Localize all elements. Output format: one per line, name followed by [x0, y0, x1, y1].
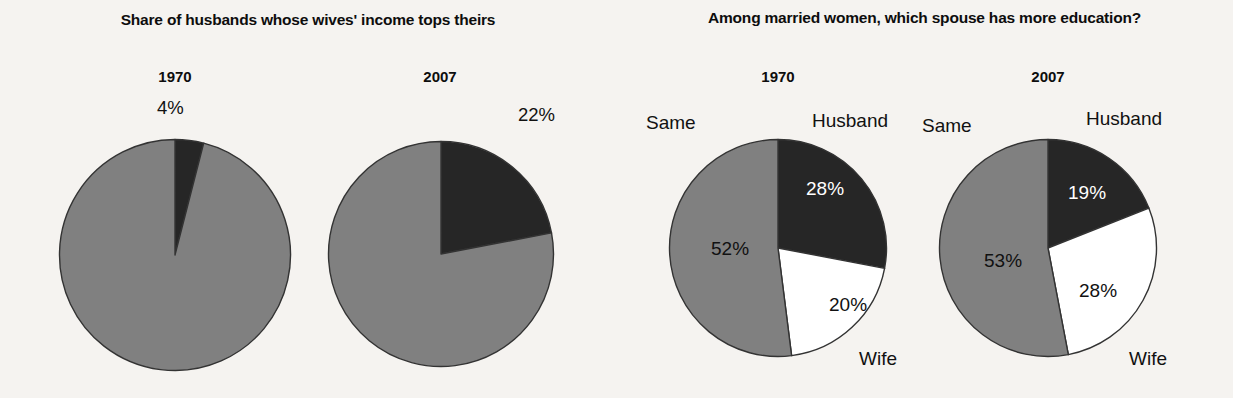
- value-same-1970: 52%: [711, 238, 749, 260]
- value-husband-2007: 19%: [1068, 182, 1106, 204]
- label-same-1970: Same: [646, 112, 696, 134]
- callout-income-2007: 22%: [518, 104, 555, 126]
- year-label-income-1970: 1970: [115, 68, 235, 85]
- value-same-2007: 53%: [984, 250, 1022, 272]
- label-wife-2007: Wife: [1129, 348, 1167, 370]
- pie-education-1970-svg: [668, 138, 888, 358]
- label-wife-1970: Wife: [859, 348, 897, 370]
- label-husband-1970: Husband: [812, 110, 888, 132]
- figure-root: Share of husbands whose wives' income to…: [0, 0, 1233, 398]
- label-same-2007: Same: [922, 115, 972, 137]
- panel-education-title: Among married women, which spouse has mo…: [616, 8, 1233, 28]
- pie-slice-other: [59, 140, 290, 371]
- panel-income-title: Share of husbands whose wives' income to…: [0, 10, 616, 30]
- pie-slice-husband: [778, 140, 887, 269]
- pie-income-2007-svg: [327, 140, 555, 368]
- pie-education-2007-slices: [940, 140, 1157, 357]
- year-label-income-2007: 2007: [380, 68, 500, 85]
- year-label-education-1970: 1970: [718, 68, 838, 85]
- pie-education-1970-slices: [669, 140, 886, 357]
- pie-education-2007: [938, 138, 1158, 358]
- pie-income-1970-svg: [58, 138, 292, 372]
- callout-income-1970: 4%: [157, 97, 184, 119]
- pie-income-1970-slices: [59, 140, 290, 371]
- value-wife-2007: 28%: [1079, 280, 1117, 302]
- value-wife-1970: 20%: [829, 294, 867, 316]
- panel-income: Share of husbands whose wives' income to…: [0, 0, 616, 398]
- year-label-education-2007: 2007: [988, 68, 1108, 85]
- pie-income-2007: [327, 140, 555, 368]
- pie-income-2007-slices: [329, 142, 554, 367]
- pie-income-1970: [58, 138, 292, 372]
- panel-education: Among married women, which spouse has mo…: [616, 0, 1233, 398]
- label-husband-2007: Husband: [1086, 108, 1162, 130]
- value-husband-1970: 28%: [806, 178, 844, 200]
- pie-education-2007-svg: [938, 138, 1158, 358]
- pie-education-1970: [668, 138, 888, 358]
